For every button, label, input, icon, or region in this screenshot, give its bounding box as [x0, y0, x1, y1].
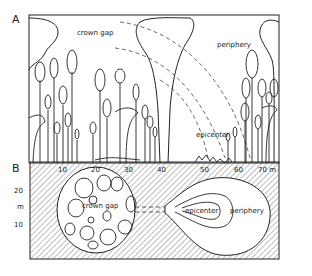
svg-text:50: 50 — [200, 166, 209, 174]
tree-group — [29, 50, 278, 163]
svg-text:60: 60 — [234, 166, 243, 174]
forest-gap-diagram: A crown gap periphery epicenter crown ga… — [0, 0, 312, 276]
label-b-periphery: periphery — [230, 207, 264, 215]
y-axis-ticks: 20 m 10 — [14, 187, 24, 229]
panel-a-letter: A — [12, 13, 20, 26]
panel-a: A crown gap periphery epicenter — [12, 13, 279, 163]
svg-text:20: 20 — [14, 187, 23, 195]
label-crown-gap: crown gap — [77, 29, 114, 37]
panel-b-letter: B — [12, 162, 20, 175]
svg-text:10: 10 — [58, 166, 67, 174]
svg-text:20: 20 — [91, 166, 100, 174]
svg-text:40: 40 — [157, 166, 166, 174]
label-b-epicenter: epicenter — [185, 207, 218, 215]
svg-text:30: 30 — [124, 166, 133, 174]
panel-b: crown gap epicenter periphery B 10 20 30… — [12, 162, 279, 259]
svg-text:10: 10 — [14, 221, 23, 229]
label-epicenter: epicenter — [196, 131, 229, 139]
svg-text:m: m — [17, 203, 24, 211]
label-b-crown-gap: crown gap — [82, 202, 119, 210]
svg-text:70 m: 70 m — [258, 166, 276, 174]
label-periphery: periphery — [217, 41, 251, 49]
